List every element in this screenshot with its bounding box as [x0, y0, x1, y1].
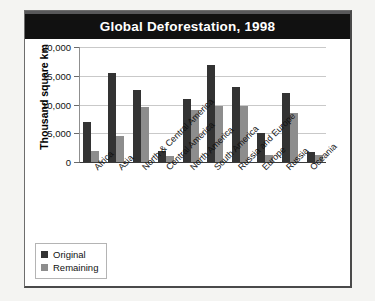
chart-title-banner: Global Deforestation, 1998	[25, 11, 350, 39]
legend-item-original: Original	[41, 248, 98, 261]
bar-original	[83, 122, 91, 162]
legend-label-remaining: Remaining	[53, 261, 98, 274]
legend-swatch-original	[41, 251, 48, 258]
bar-remaining	[141, 107, 149, 162]
page-title: Global Deforestation, 1998	[100, 19, 276, 34]
y-axis-tick	[74, 162, 79, 163]
y-axis-tick	[74, 76, 79, 77]
legend-swatch-remaining	[41, 264, 48, 271]
y-axis-tick	[74, 133, 79, 134]
bar-group	[83, 47, 99, 162]
y-axis-tick-label: 10,000	[42, 99, 71, 110]
chart-card: Global Deforestation, 1998 Thousand squa…	[24, 10, 352, 288]
y-axis-tick-label: 0	[66, 157, 71, 168]
y-axis-tick	[74, 105, 79, 106]
bar-group	[307, 47, 323, 162]
legend-item-remaining: Remaining	[41, 261, 98, 274]
bar-original	[133, 90, 141, 162]
chart-legend: Original Remaining	[35, 243, 107, 279]
screenshot-frame: Global Deforestation, 1998 Thousand squa…	[0, 0, 375, 301]
legend-label-original: Original	[53, 248, 86, 261]
bar-group	[133, 47, 149, 162]
chart-area: Thousand square km 05,00010,00015,00020,…	[25, 39, 352, 287]
y-axis-tick	[74, 47, 79, 48]
y-axis-tick-label: 5,000	[47, 128, 71, 139]
y-axis-tick-label: 15,000	[42, 70, 71, 81]
bar-group	[108, 47, 124, 162]
y-axis-tick-label: 20,000	[42, 42, 71, 53]
bar-group	[282, 47, 298, 162]
